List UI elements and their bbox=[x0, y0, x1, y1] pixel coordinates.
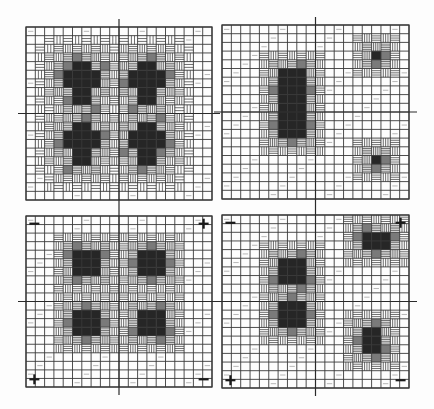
density-plot bbox=[26, 27, 212, 200]
panel-bottom-left bbox=[26, 216, 212, 387]
plus-icon bbox=[29, 374, 39, 384]
plus-icon bbox=[225, 375, 235, 385]
figure bbox=[0, 0, 434, 409]
axes bbox=[18, 208, 220, 395]
density-plot bbox=[222, 215, 409, 388]
panel-top-right bbox=[222, 25, 409, 199]
panel-top-left bbox=[26, 27, 212, 200]
density-plot bbox=[26, 216, 212, 387]
density-plot bbox=[222, 25, 409, 199]
panel-bottom-right bbox=[222, 215, 409, 388]
